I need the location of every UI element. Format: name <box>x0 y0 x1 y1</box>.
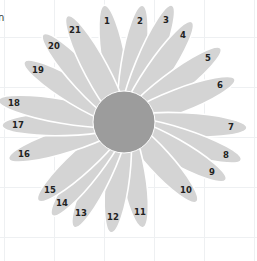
petal-label: 18 <box>8 98 20 108</box>
petal-label: 5 <box>205 53 211 63</box>
flower-center <box>93 91 155 153</box>
petal-label: 19 <box>32 65 44 75</box>
petal-label: 20 <box>48 41 60 51</box>
petal-label: 16 <box>18 149 30 159</box>
petal-label: 15 <box>44 185 56 195</box>
petal-label: 12 <box>107 212 119 222</box>
petal-label: 10 <box>180 185 192 195</box>
petal-label: 4 <box>180 30 186 40</box>
petal-label: 21 <box>69 25 81 35</box>
petal-label: 14 <box>56 198 68 208</box>
petal-label: 8 <box>223 150 229 160</box>
petal-label: 17 <box>12 120 24 130</box>
petal-label: 2 <box>137 16 143 26</box>
petal-label: 3 <box>163 15 169 25</box>
petal-label: 9 <box>209 167 215 177</box>
numbered-flower-diagram: 123456789101112131415161718192021 <box>0 0 257 261</box>
petal-label: 6 <box>217 80 223 90</box>
petal-label: 1 <box>104 16 110 26</box>
petal-label: 11 <box>134 207 146 217</box>
petal-label: 13 <box>75 208 87 218</box>
petal-label: 7 <box>228 122 234 132</box>
